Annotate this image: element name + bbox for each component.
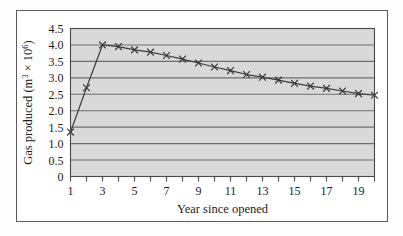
figure-container: 135791113151719 00.51.01.52.02.53.03.54.… <box>0 0 403 236</box>
y-tick-label-2.0: 2.0 <box>49 104 64 118</box>
x-tick-label-7: 7 <box>164 184 170 198</box>
y-tick-label-0: 0 <box>58 170 64 184</box>
y-axis-title-text: Gas produced (m3 × 106) <box>20 40 35 165</box>
y-tick-label-3.5: 3.5 <box>49 55 64 69</box>
x-tick-label-1: 1 <box>68 184 74 198</box>
plot-area-background <box>71 29 375 177</box>
x-tick-label-15: 15 <box>289 184 301 198</box>
x-tick-label-11: 11 <box>225 184 237 198</box>
y-tick-label-1.5: 1.5 <box>49 121 64 135</box>
x-tick-label-3: 3 <box>100 184 106 198</box>
x-tick-label-5: 5 <box>132 184 138 198</box>
x-axis-tick-labels: 135791113151719 <box>68 184 365 198</box>
x-tick-label-17: 17 <box>321 184 333 198</box>
plot-background-rect <box>71 29 375 177</box>
y-axis-title: Gas produced (m3 × 106) <box>20 40 35 165</box>
x-tick-label-13: 13 <box>257 184 269 198</box>
y-tick-label-3.0: 3.0 <box>49 71 64 85</box>
y-tick-label-2.5: 2.5 <box>49 88 64 102</box>
y-tick-label-0.5: 0.5 <box>49 154 64 168</box>
x-axis-title-text: Year since opened <box>177 202 269 216</box>
y-tick-label-4.5: 4.5 <box>49 22 64 36</box>
gas-production-line-chart: 135791113151719 00.51.01.52.02.53.03.54.… <box>0 0 403 236</box>
y-tick-label-4.0: 4.0 <box>49 38 64 52</box>
x-tick-label-19: 19 <box>353 184 365 198</box>
y-tick-label-1.0: 1.0 <box>49 137 64 151</box>
y-axis-tick-labels: 00.51.01.52.02.53.03.54.04.5 <box>49 22 64 184</box>
x-axis-ticks <box>71 177 375 182</box>
x-axis-title: Year since opened <box>177 202 269 216</box>
x-tick-label-9: 9 <box>196 184 202 198</box>
